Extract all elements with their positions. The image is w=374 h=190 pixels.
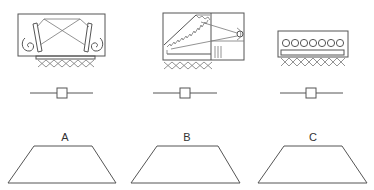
slider-a[interactable] xyxy=(30,88,93,98)
light-rays-icon xyxy=(281,58,345,66)
side-lamp-icon xyxy=(237,31,243,37)
panel-label-b: B xyxy=(183,131,190,143)
fixture-b-housing xyxy=(163,13,244,60)
lamp-row-icon xyxy=(282,39,343,46)
fixture-a xyxy=(18,14,105,67)
slider-handle[interactable] xyxy=(57,88,67,98)
left-lamp-icon xyxy=(22,38,33,51)
fixture-b xyxy=(163,13,244,69)
fixture-c xyxy=(278,31,348,66)
trapezoid-a xyxy=(8,146,116,183)
fixture-c-housing xyxy=(278,31,348,57)
left-reflector-icon xyxy=(33,23,42,52)
fixture-a-housing xyxy=(18,14,105,56)
light-rays-icon xyxy=(164,62,212,69)
panel-label-a: A xyxy=(61,131,69,143)
trapezoid-b xyxy=(131,146,240,183)
right-lamp-icon xyxy=(91,38,102,51)
slider-c[interactable] xyxy=(280,88,343,98)
diagram-canvas: A B C xyxy=(0,0,374,190)
diffuser-strip xyxy=(36,56,95,59)
right-reflector-icon xyxy=(84,23,92,52)
trapezoid-c xyxy=(258,146,367,183)
light-rays-icon xyxy=(38,60,94,67)
panel-label-c: C xyxy=(309,131,317,143)
slider-handle[interactable] xyxy=(180,88,190,98)
diffuser-strip xyxy=(281,50,344,55)
slider-b[interactable] xyxy=(153,88,217,98)
slider-handle[interactable] xyxy=(306,88,316,98)
